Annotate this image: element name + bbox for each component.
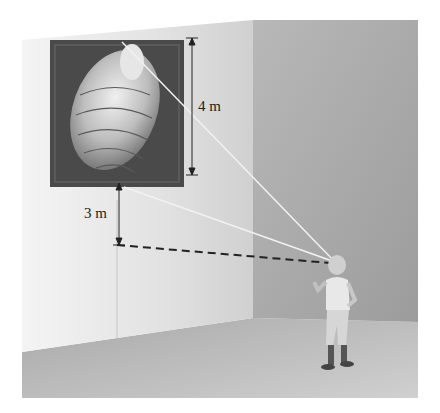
- gallery-scene: 4 m 3 m: [0, 0, 440, 413]
- label-4m: 4 m: [198, 98, 221, 115]
- scene-illustration: [0, 0, 440, 413]
- back-wall: [253, 20, 418, 322]
- painting: [50, 37, 184, 187]
- label-3m: 3 m: [84, 205, 107, 222]
